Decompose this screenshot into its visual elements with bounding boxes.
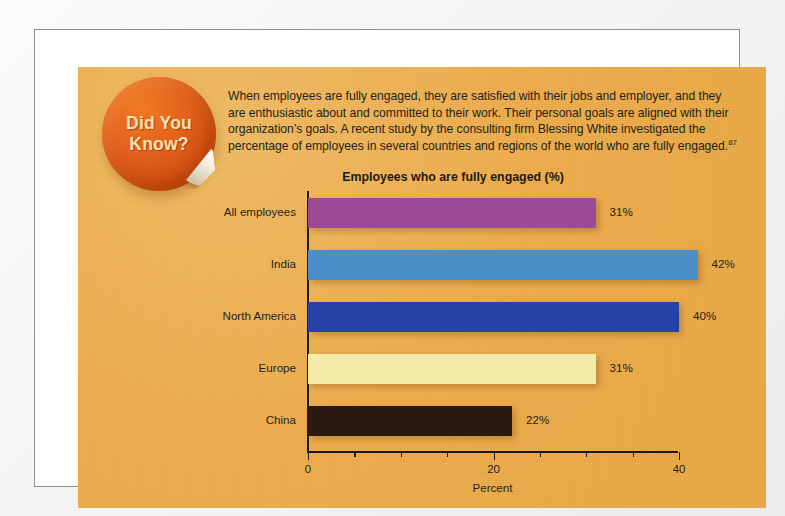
x-tick-label: 40 — [673, 463, 686, 475]
x-tick-major — [494, 452, 495, 460]
x-tick-minor — [401, 452, 402, 457]
bar-category-label: Europe — [78, 361, 296, 374]
badge-line-2: Know? — [129, 134, 188, 155]
page-sheet: Did You Know? When employees are fully e… — [0, 0, 785, 516]
x-tick-major — [308, 452, 309, 460]
x-tick-minor — [633, 452, 634, 457]
footnote-marker: 87 — [728, 138, 737, 147]
x-axis-title: Percent — [307, 481, 678, 494]
bar[interactable] — [308, 354, 596, 384]
bar-row: All employees31% — [78, 191, 766, 243]
bar-category-label: All employees — [78, 205, 296, 218]
x-tick-label: 0 — [305, 463, 311, 475]
bar-row: India42% — [78, 243, 766, 295]
intro-paragraph: When employees are fully engaged, they a… — [228, 88, 738, 154]
bar-row: Europe31% — [78, 347, 766, 399]
bar-row: China22% — [78, 399, 766, 451]
chart-title: Employees who are fully engaged (%) — [228, 170, 678, 184]
bar[interactable] — [308, 302, 679, 332]
x-tick-major — [679, 452, 680, 460]
bar-chart: All employees31%India42%North America40%… — [78, 191, 766, 491]
bar-row: North America40% — [78, 295, 766, 347]
did-you-know-badge: Did You Know? — [97, 73, 225, 201]
bar-category-label: China — [78, 413, 296, 426]
bar[interactable] — [308, 250, 698, 280]
bar[interactable] — [308, 198, 596, 228]
x-tick-minor — [586, 452, 587, 457]
x-axis-line — [307, 451, 678, 453]
callout-panel: Did You Know? When employees are fully e… — [78, 67, 766, 508]
x-tick-minor — [540, 452, 541, 457]
badge-line-1: Did You — [126, 113, 192, 134]
x-tick-minor — [447, 452, 448, 457]
bar[interactable] — [308, 406, 512, 436]
bar-value-label: 22% — [526, 413, 549, 426]
x-tick-minor — [354, 452, 355, 457]
bar-category-label: North America — [78, 309, 296, 322]
intro-text: When employees are fully engaged, they a… — [228, 89, 728, 153]
x-tick-label: 20 — [487, 463, 500, 475]
bar-value-label: 31% — [610, 361, 633, 374]
page-frame: Did You Know? When employees are fully e… — [34, 29, 740, 487]
bar-value-label: 31% — [610, 205, 633, 218]
bar-value-label: 42% — [712, 257, 735, 270]
bar-value-label: 40% — [693, 309, 716, 322]
bar-category-label: India — [78, 257, 296, 270]
